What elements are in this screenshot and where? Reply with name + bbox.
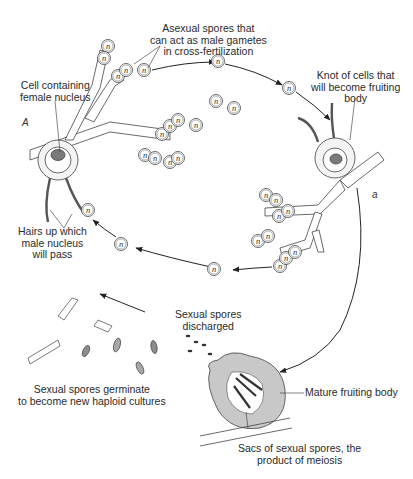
haploid-symbol: n (86, 205, 90, 215)
discharged-spores (186, 335, 213, 355)
label-line: Sacs of sexual spores, the (238, 443, 361, 455)
label-line: Knot of cells that (311, 70, 400, 82)
haploid-symbol: n (176, 153, 180, 163)
haploid-symbol: n (286, 206, 290, 216)
haploid-symbol: n (102, 53, 106, 63)
haploid-symbol: n (277, 211, 281, 221)
haploid-symbol: n (264, 190, 268, 200)
label-line: in cross-fertilization (150, 46, 267, 58)
haploid-symbol: n (287, 83, 291, 93)
haploid-symbol: n (256, 236, 260, 246)
haploid-symbol: n (214, 96, 218, 106)
haploid-symbol: n (232, 103, 236, 113)
label-line: Sexual spores germinate (18, 384, 166, 396)
label-line: Cell containing (20, 80, 91, 92)
haploid-symbol: n (143, 150, 147, 160)
label-cell-female-nucleus: Cell containing female nucleus (20, 80, 91, 103)
strain-tag-left: A (22, 117, 29, 128)
trichogyne-hairs (46, 178, 84, 222)
haploid-symbol: n (168, 157, 172, 167)
label-line: Asexual spores that (150, 23, 267, 35)
label-spores-discharged: Sexual spores discharged (175, 309, 242, 332)
haploid-symbol: n (216, 56, 220, 66)
label-line: Hairs up which (18, 226, 87, 238)
haploid-symbol: n (106, 41, 110, 51)
label-line: discharged (175, 321, 242, 333)
haploid-symbol: n (160, 129, 164, 139)
label-line: will pass (18, 249, 87, 261)
haploid-symbol: n (194, 120, 198, 130)
label-germinate: Sexual spores germinate to become new ha… (18, 384, 166, 407)
haploid-symbol: n (284, 253, 288, 263)
haploid-symbol: n (274, 195, 278, 205)
haploid-symbol: n (124, 65, 128, 75)
haploid-symbol: n (153, 153, 157, 163)
strain-tag-right: a (372, 189, 378, 200)
haploid-symbol: n (293, 247, 297, 257)
spores-right: nnnnnnnn (252, 189, 302, 265)
label-mature-fruiting-body: Mature fruiting body (305, 387, 398, 399)
label-line: Sexual spores (175, 309, 242, 321)
haploid-symbol: n (176, 115, 180, 125)
label-line: body (311, 93, 400, 105)
label-line: female nucleus (20, 92, 91, 104)
label-hairs: Hairs up which male nucleus will pass (18, 226, 87, 261)
haploid-symbol: n (266, 231, 270, 241)
label-line: product of meiosis (238, 455, 361, 467)
haploid-symbol: n (119, 239, 123, 249)
label-knot-of-cells: Knot of cells that will become fruiting … (311, 70, 400, 105)
haploid-symbol: n (116, 71, 120, 81)
fruiting-body (200, 353, 292, 446)
label-asexual-spores: Asexual spores that can act as male game… (150, 23, 267, 58)
mycelium-right (265, 138, 384, 256)
haploid-symbol: n (142, 65, 146, 75)
right-hairs (298, 103, 334, 142)
life-cycle-diagram: nnnnnnnnnnnnnnnnnnnnn nnnnnnnn (0, 0, 413, 479)
label-line: to become new haploid cultures (18, 396, 166, 408)
haploid-symbol: n (168, 121, 172, 131)
label-sacs: Sacs of sexual spores, the product of me… (238, 443, 361, 466)
haploid-symbol: n (212, 264, 216, 274)
